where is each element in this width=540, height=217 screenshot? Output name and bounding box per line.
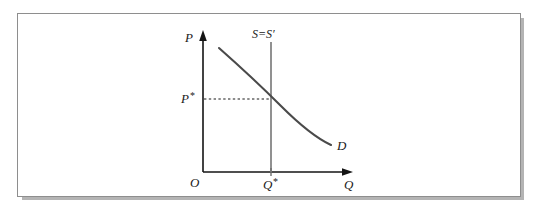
figure-frame: [17, 13, 521, 197]
